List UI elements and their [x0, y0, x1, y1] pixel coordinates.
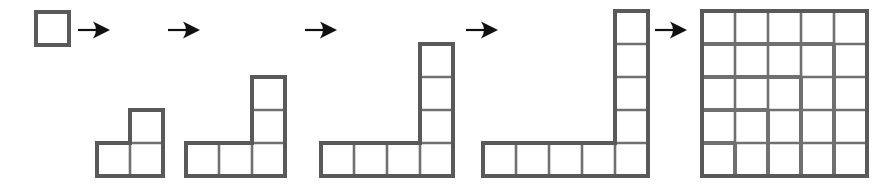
arrow-5 — [655, 22, 687, 39]
arrow-1 — [78, 22, 110, 39]
arrow-2 — [168, 22, 200, 39]
arrow-3 — [305, 22, 337, 39]
gnomon-diagram-canvas — [0, 0, 885, 184]
arrow-layer — [0, 0, 885, 184]
arrow-4 — [466, 22, 498, 39]
